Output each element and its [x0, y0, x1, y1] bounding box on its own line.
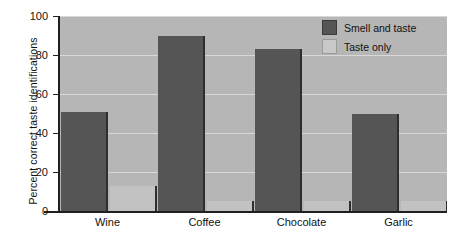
y-tick-mark	[53, 16, 59, 18]
y-tick-mark	[53, 55, 59, 57]
y-tick-label: 100	[8, 10, 48, 22]
y-tick-mark	[53, 94, 59, 96]
legend-swatch-icon	[322, 20, 337, 35]
legend-label: Taste only	[344, 41, 391, 53]
y-tick-label: 80	[8, 49, 48, 61]
bar-chocolate-taste-only	[304, 201, 351, 211]
y-tick-label: 20	[8, 166, 48, 178]
y-axis-line	[58, 16, 60, 212]
legend-swatch-icon	[322, 39, 337, 54]
bar-wine-taste-only	[110, 186, 157, 211]
y-tick-mark	[53, 211, 59, 213]
y-tick-mark	[53, 172, 59, 174]
x-category-label-chocolate: Chocolate	[277, 216, 327, 228]
x-category-label-garlic: Garlic	[384, 216, 413, 228]
y-tick-label: 0	[8, 205, 48, 217]
bar-chart-figure: Percent correct taste identifications 02…	[0, 0, 462, 240]
legend-item-smell-and-taste: Smell and taste	[322, 18, 444, 37]
y-tick-label: 60	[8, 88, 48, 100]
gridline	[59, 94, 447, 95]
legend-label: Smell and taste	[344, 22, 416, 34]
bar-garlic-smell-and-taste	[352, 114, 399, 212]
bar-wine-smell-and-taste	[61, 112, 108, 211]
x-category-label-coffee: Coffee	[188, 216, 220, 228]
bar-garlic-taste-only	[401, 201, 448, 211]
bar-chocolate-smell-and-taste	[255, 49, 302, 211]
gridline	[59, 16, 447, 17]
bar-coffee-smell-and-taste	[158, 36, 205, 212]
y-tick-label: 40	[8, 127, 48, 139]
bar-coffee-taste-only	[207, 201, 254, 211]
y-tick-mark	[53, 133, 59, 135]
chart-legend: Smell and tasteTaste only	[322, 18, 444, 56]
x-category-label-wine: Wine	[95, 216, 120, 228]
legend-item-taste-only: Taste only	[322, 37, 444, 56]
x-axis-line	[44, 211, 447, 213]
